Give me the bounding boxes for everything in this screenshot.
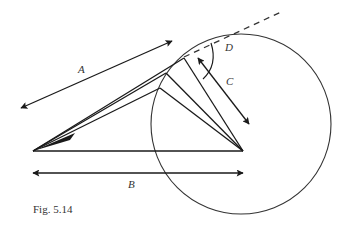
diagram-svg (0, 0, 342, 229)
figure-canvas: A B C D Fig. 5.14 (0, 0, 342, 229)
fan-lines (33, 58, 243, 151)
label-c: C (226, 75, 233, 87)
angle-arc-d (203, 43, 213, 79)
arrow-a (21, 41, 172, 108)
figure-caption: Fig. 5.14 (33, 203, 72, 215)
label-d: D (225, 41, 233, 53)
label-b: B (128, 178, 135, 190)
label-a: A (78, 63, 85, 75)
apex-wedge (33, 133, 75, 151)
